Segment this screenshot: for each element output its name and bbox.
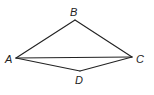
- segment-ac: [16, 57, 132, 58]
- segment-bc: [75, 20, 132, 57]
- segment-dc: [80, 57, 132, 71]
- segment-ab: [16, 20, 75, 58]
- segment-ad: [16, 58, 80, 71]
- vertex-label-c: C: [136, 53, 144, 65]
- geometry-diagram: ABCD: [0, 0, 154, 95]
- vertex-label-b: B: [70, 6, 77, 18]
- vertex-label-a: A: [4, 53, 12, 65]
- vertex-label-d: D: [75, 74, 83, 86]
- vertex-labels: ABCD: [4, 6, 144, 86]
- edges: [16, 20, 132, 71]
